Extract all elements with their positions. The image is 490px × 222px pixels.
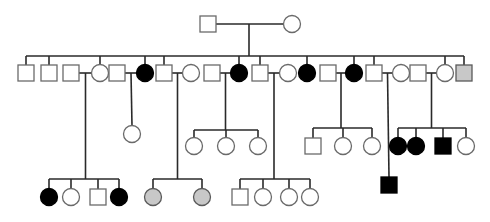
- female-affected-individual: [390, 138, 407, 155]
- male-unaffected-individual: [410, 65, 426, 81]
- female-affected-individual: [137, 65, 154, 82]
- descent-line: [131, 73, 132, 126]
- descent-line: [388, 73, 390, 177]
- male-unaffected-individual: [63, 65, 79, 81]
- female-unaffected-individual: [250, 138, 267, 155]
- male-unaffected-individual: [204, 65, 220, 81]
- female-unaffected-individual: [458, 138, 475, 155]
- male-unaffected-individual: [41, 65, 57, 81]
- female-affected-individual: [231, 65, 248, 82]
- female-unaffected-individual: [302, 189, 319, 206]
- female-unaffected-individual: [255, 189, 272, 206]
- female-affected-individual: [41, 189, 58, 206]
- female-carrier-individual: [194, 189, 211, 206]
- female-unaffected-individual: [63, 189, 80, 206]
- male-unaffected-individual: [305, 138, 321, 154]
- female-unaffected-individual: [284, 16, 301, 33]
- female-unaffected-individual: [280, 65, 297, 82]
- female-unaffected-individual: [281, 189, 298, 206]
- male-affected-individual: [381, 177, 397, 193]
- female-unaffected-individual: [92, 65, 109, 82]
- male-unaffected-individual: [200, 16, 216, 32]
- male-unaffected-individual: [156, 65, 172, 81]
- female-unaffected-individual: [218, 138, 235, 155]
- male-unaffected-individual: [320, 65, 336, 81]
- female-unaffected-individual: [183, 65, 200, 82]
- female-unaffected-individual: [124, 126, 141, 143]
- female-affected-individual: [299, 65, 316, 82]
- male-unaffected-individual: [366, 65, 382, 81]
- female-unaffected-individual: [393, 65, 410, 82]
- male-carrier-individual: [456, 65, 472, 81]
- female-affected-individual: [408, 138, 425, 155]
- female-affected-individual: [111, 189, 128, 206]
- male-unaffected-individual: [252, 65, 268, 81]
- pedigree-symbols: [18, 16, 475, 206]
- male-unaffected-individual: [232, 189, 248, 205]
- female-unaffected-individual: [364, 138, 381, 155]
- female-unaffected-individual: [437, 65, 454, 82]
- male-unaffected-individual: [90, 189, 106, 205]
- female-unaffected-individual: [335, 138, 352, 155]
- male-unaffected-individual: [109, 65, 125, 81]
- pedigree-lines: [26, 24, 466, 189]
- female-carrier-individual: [145, 189, 162, 206]
- male-affected-individual: [435, 138, 451, 154]
- pedigree-chart: [0, 0, 490, 222]
- female-affected-individual: [346, 65, 363, 82]
- male-unaffected-individual: [18, 65, 34, 81]
- female-unaffected-individual: [186, 138, 203, 155]
